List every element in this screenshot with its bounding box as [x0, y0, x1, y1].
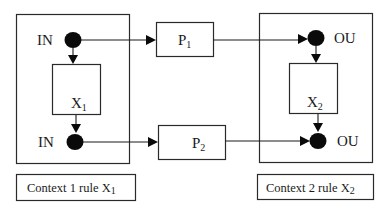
context2-output-top-node — [308, 30, 325, 46]
context2-output-bottom-label: OU — [337, 133, 359, 149]
arrowhead-p2-in — [148, 137, 158, 147]
context2-caption: Context 2 rule X2 — [266, 181, 355, 196]
context2-output-bottom-node — [310, 133, 327, 149]
context1-input-top-node — [65, 32, 82, 48]
context1-caption: Context 1 rule X1 — [27, 181, 116, 196]
context1-input-top-label: IN — [37, 32, 53, 48]
diagram-canvas: X1 X2 P1 P2 IN IN OU OU Context 1 rule X… — [0, 0, 389, 212]
context2-output-top-label: OU — [334, 30, 356, 46]
context1-input-bottom-label: IN — [38, 134, 54, 150]
context1-input-bottom-node — [67, 134, 84, 150]
arrowhead-p1-in — [146, 35, 156, 45]
